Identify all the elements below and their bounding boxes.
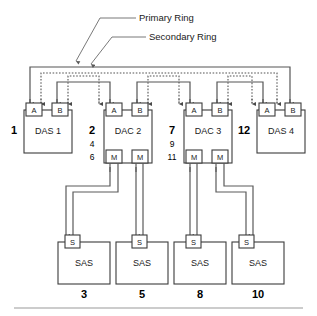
unit-das4-port-b-label: B bbox=[290, 106, 295, 115]
ring-port-arrowheads bbox=[30, 99, 290, 104]
primary-ring-bus bbox=[30, 67, 290, 103]
unit-das4[interactable]: DAS 4 A B 12 bbox=[238, 103, 305, 153]
primary-ring-label: Primary Ring bbox=[139, 12, 194, 23]
storage-sas3-port-s-label: S bbox=[70, 238, 75, 247]
callout-dac3-primary: 7 bbox=[169, 124, 175, 136]
storage-sas3[interactable]: SAS S 3 bbox=[58, 235, 110, 300]
primary-ring-outer-trunk bbox=[30, 67, 290, 103]
ring-topology-diagram: Primary Ring Secondary Ring bbox=[0, 0, 317, 316]
cable-dac3-m2-to-sas10 bbox=[216, 163, 246, 236]
callout-dac3-extra-1: 9 bbox=[170, 139, 175, 149]
storage-sas10-name: SAS bbox=[249, 258, 267, 268]
primary-ring-leader-line bbox=[76, 18, 136, 61]
callout-das1: 1 bbox=[11, 124, 17, 136]
unit-dac2-port-m1-label: M bbox=[111, 153, 117, 162]
callout-sas3: 3 bbox=[81, 288, 87, 300]
storage-sas5-name: SAS bbox=[133, 258, 151, 268]
unit-dac3-port-m1-label: M bbox=[191, 153, 197, 162]
callout-dac2-extra-2: 6 bbox=[90, 152, 95, 162]
unit-dac2-port-m2-label: M bbox=[137, 153, 143, 162]
callout-dac3-extra-2: 11 bbox=[168, 152, 177, 162]
unit-dac3[interactable]: DAC 3 A B M M 7 9 11 bbox=[168, 103, 232, 163]
cable-dac2-m1-to-sas3-b bbox=[73, 163, 118, 236]
storage-sas5-port-s-label: S bbox=[137, 238, 142, 247]
callout-das4: 12 bbox=[238, 124, 250, 136]
secondary-ring-label: Secondary Ring bbox=[149, 31, 217, 42]
unit-dac2-port-a-label: A bbox=[111, 106, 116, 115]
storage-sas8-port-s-label: S bbox=[191, 238, 196, 247]
callout-sas5: 5 bbox=[139, 288, 145, 300]
unit-das4-port-a-label: A bbox=[264, 106, 269, 115]
unit-das1-name: DAS 1 bbox=[35, 126, 61, 136]
unit-das1-port-b-label: B bbox=[57, 106, 62, 115]
secondary-ring-outer-trunk bbox=[41, 73, 277, 103]
callout-dac2-primary: 2 bbox=[89, 124, 95, 136]
callout-sas10: 10 bbox=[252, 288, 264, 300]
storage-sas8-name: SAS bbox=[191, 258, 209, 268]
unit-dac2-name: DAC 2 bbox=[115, 126, 142, 136]
unit-dac3-port-a-label: A bbox=[191, 106, 196, 115]
unit-das1-port-a-label: A bbox=[31, 106, 36, 115]
diagram-canvas: Primary Ring Secondary Ring bbox=[0, 0, 317, 316]
sas-cable-group bbox=[66, 163, 253, 236]
unit-dac2-port-b-label: B bbox=[137, 106, 142, 115]
secondary-ring-leader-line bbox=[91, 37, 146, 64]
storage-sas10-port-s-label: S bbox=[244, 238, 249, 247]
unit-das1[interactable]: DAS 1 A B 1 bbox=[11, 103, 72, 153]
unit-dac3-port-m2-label: M bbox=[217, 153, 223, 162]
callout-sas8: 8 bbox=[197, 288, 203, 300]
unit-dac2[interactable]: DAC 2 A B M M 2 4 6 bbox=[89, 103, 152, 163]
secondary-ring-bus bbox=[41, 73, 277, 103]
secondary-ring-segment-3 bbox=[228, 76, 252, 103]
cable-dac3-m2-to-sas10-b bbox=[224, 163, 253, 236]
unit-dac3-name: DAC 3 bbox=[195, 126, 222, 136]
storage-sas5[interactable]: SAS S 5 bbox=[116, 235, 168, 300]
primary-ring-segment-1 bbox=[57, 82, 110, 103]
callout-dac2-extra-1: 4 bbox=[90, 139, 95, 149]
secondary-ring-segment-1 bbox=[68, 76, 99, 103]
unit-dac3-port-b-label: B bbox=[217, 106, 222, 115]
storage-sas10[interactable]: SAS S 10 bbox=[232, 235, 284, 300]
storage-sas8[interactable]: SAS S 8 bbox=[174, 235, 226, 300]
secondary-ring-segment-2 bbox=[148, 76, 179, 103]
primary-ring-segment-3 bbox=[217, 82, 263, 103]
legend-group: Primary Ring Secondary Ring bbox=[76, 12, 217, 64]
storage-sas3-name: SAS bbox=[75, 258, 93, 268]
primary-ring-segment-2 bbox=[137, 82, 190, 103]
unit-das4-name: DAS 4 bbox=[268, 126, 294, 136]
